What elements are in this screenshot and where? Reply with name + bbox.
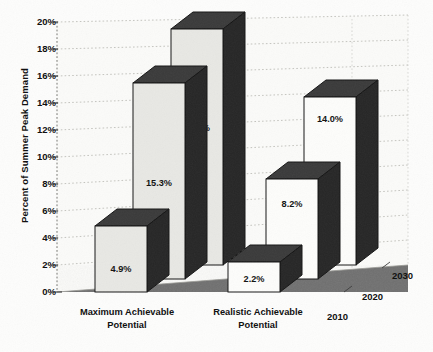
bar-max-2010[interactable]: 4.9% — [95, 209, 169, 292]
y-tick-14: 14% — [22, 98, 56, 108]
bar-value-max-2010: 4.9% — [111, 264, 132, 274]
y-tick-0: 0% — [22, 287, 56, 297]
category-label-maximum-achievable-potential: Maximum Achievable Potential — [57, 306, 197, 331]
bar-value-realistic-2030: 14.0% — [317, 114, 343, 124]
y-tick-10: 10% — [22, 152, 56, 162]
y-tick-16: 16% — [22, 71, 56, 81]
category-label-realistic-achievable-potential: Realistic Achievable Potential — [188, 306, 328, 331]
chart-container: 19.5% 14.0% 15.3% 8.2% — [0, 0, 433, 352]
y-tick-2: 2% — [22, 260, 56, 270]
y-tick-6: 6% — [22, 206, 56, 216]
series-label-2030: 2030 — [392, 270, 413, 281]
series-label-2010: 2010 — [327, 311, 348, 322]
y-tick-20: 20% — [22, 17, 56, 27]
y-axis-tick-labels: 20% 18% 16% 14% 12% 10% 8% 6% 4% 2% 0% — [16, 0, 56, 352]
y-tick-12: 12% — [22, 125, 56, 135]
y-tick-8: 8% — [22, 179, 56, 189]
y-tick-18: 18% — [22, 44, 56, 54]
bar-value-realistic-2020: 8.2% — [282, 199, 303, 209]
bar-value-max-2020: 15.3% — [146, 178, 172, 188]
series-label-2020: 2020 — [362, 291, 383, 302]
y-tick-4: 4% — [22, 233, 56, 243]
bar-value-realistic-2010: 2.2% — [244, 274, 265, 284]
